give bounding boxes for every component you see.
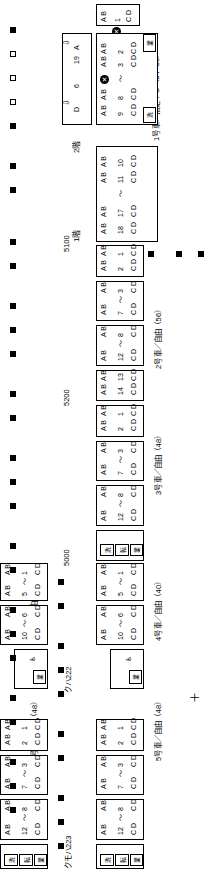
- seat-row-right: C D: [34, 799, 41, 811]
- seat-row-num: 1: [114, 18, 121, 22]
- car-3-block-1: A B 3 C D ～ A B 7 C D: [96, 441, 144, 481]
- car-5-block-0: A B 1 C D A B 2 C D: [96, 719, 144, 751]
- seat-row-right: C D: [130, 155, 137, 167]
- seat-row-left: A B: [100, 56, 107, 67]
- seat-row-right: C D: [130, 404, 137, 416]
- seat-row-left: A B: [100, 824, 107, 835]
- seat-row-right: C D: [34, 628, 41, 640]
- utility-cell: 業: [130, 854, 143, 866]
- seat-row-num: 9: [117, 112, 124, 116]
- seat-row-left: A B: [4, 824, 11, 835]
- car-6-block-1: A B 6 C D ～ A B 10 C D: [0, 605, 48, 645]
- seat-row-num: ～: [117, 814, 124, 821]
- car-3-vehicle-code: 5000: [62, 549, 71, 566]
- seat-row-num: 12: [117, 353, 124, 361]
- car-5-utility-block: 洗 転 業: [96, 844, 144, 869]
- utility-cell: 業: [33, 670, 46, 684]
- seat-row-num: 3: [21, 763, 28, 767]
- seat-row-right: C D: [34, 733, 41, 745]
- seat-row-right: C D: [130, 325, 137, 337]
- seat-row-num: ～: [117, 296, 124, 303]
- car-7-block-0: A B 1 C D A B 2 C D: [0, 719, 48, 751]
- car-5-block-2: A B 8 C D ～ A B 12 C D: [96, 799, 144, 840]
- car-7-block-1: A B 3 C D ～ A B 7 C D: [0, 755, 48, 795]
- seat-row-num: 3: [117, 289, 124, 293]
- seat-row-left: A B: [100, 105, 107, 116]
- seat-row-left: A B: [100, 464, 107, 475]
- seat-row-right: C D: [130, 733, 137, 745]
- seat-row-left: A B: [100, 43, 107, 54]
- car-3-label: 3号車／自由（48）: [152, 431, 163, 495]
- seat-row-left: A B: [100, 405, 107, 416]
- seat-row-num: 2: [117, 50, 124, 54]
- seat-row-right: C D: [130, 303, 137, 315]
- seat-row-right: C D: [130, 485, 137, 497]
- seat-row-num: 1: [21, 726, 28, 730]
- car-1-vehicle-code: 5100: [62, 235, 71, 252]
- seat-row-left: A B: [100, 719, 107, 730]
- car-7-utility-block: 洗 転 業: [0, 844, 48, 869]
- seat-row-num: 1: [117, 412, 124, 416]
- car-2-block-2: A B 8 C D ～ A B 12 C D: [96, 325, 144, 366]
- seat-row-right: C D: [130, 369, 137, 381]
- seat-row-right: C D: [125, 10, 132, 22]
- seat-row-left: A B: [100, 564, 107, 575]
- seat-row-right: C D: [130, 463, 137, 475]
- seat-row-left: A B: [100, 756, 107, 767]
- seat-row-num: 2: [117, 267, 124, 271]
- seat-row-num: 8: [21, 807, 28, 811]
- seat-row-right: C D: [130, 777, 137, 789]
- seat-row-left: A B: [100, 11, 107, 22]
- seat-row-num: 1: [117, 726, 124, 730]
- seat-row-right: C D: [130, 88, 137, 100]
- seat-row-right: C D: [130, 509, 137, 521]
- seat-row-num: ～: [117, 190, 124, 197]
- utility-cell: 転: [115, 544, 129, 556]
- wheelchair-icon: ♿: [29, 656, 36, 662]
- car-1-block-2: A B 10 C D A B 11 C D ～ A B 17 C D A B 1…: [96, 146, 158, 242]
- seat-row-num: ～: [117, 500, 124, 507]
- seat-row-num: ～: [117, 456, 124, 463]
- utility-cell: 洗: [4, 854, 18, 866]
- seat-row-num: 7: [117, 311, 124, 315]
- utility-cell: 洗: [143, 107, 156, 123]
- car-2-label: 2号車／自由（56）: [152, 305, 163, 369]
- car-3-block-2: A B 8 C D ～ A B 12 C D: [96, 485, 144, 526]
- seat-row-num: 11: [117, 176, 124, 183]
- seat-row-num: ～: [21, 578, 28, 585]
- seat-row-left: A B: [100, 326, 107, 337]
- seat-row-right: C D: [130, 259, 137, 271]
- seat-row-left: A B: [100, 486, 107, 497]
- car-2-block-0: A B 1 C D A B 2 C D: [96, 245, 144, 277]
- car-5-vehicle-code: クモハ223: [62, 835, 73, 869]
- car-1-block-1: A B 2 C D A B 3 C D ～ ✕ A B 8 C D A B 9 …: [96, 33, 158, 125]
- seat-row-num: 18: [117, 226, 124, 234]
- car-4-block-0: A B 1 C D ～ A B 5 C D: [96, 563, 144, 601]
- utility-cell: 業: [143, 34, 156, 52]
- seat-row-num: 10: [21, 632, 28, 640]
- seat-row-num: 10: [117, 159, 124, 167]
- seat-row-num: 12: [117, 827, 124, 835]
- seat-row-right: C D: [130, 755, 137, 767]
- utility-cell: 業: [130, 544, 143, 556]
- seat-row-left: A B: [100, 370, 107, 381]
- seat-row-right: C D: [130, 799, 137, 811]
- seat-row-left: A B: [100, 350, 107, 361]
- seat-row-right: C D: [130, 419, 137, 431]
- car-4-label: 4号車／自由（40）: [152, 577, 163, 641]
- marker-square: [198, 251, 204, 257]
- seat-row-num: 8: [117, 96, 124, 100]
- seat-row-right: C D: [130, 563, 137, 575]
- seat-row-right: C D: [34, 718, 41, 730]
- seat-row-right: C D: [34, 823, 41, 835]
- utility-cell: 転: [115, 854, 129, 866]
- seat-row-num: 1: [117, 252, 124, 256]
- seat-row-left: A B: [100, 206, 107, 217]
- seat-row-right: C D: [130, 55, 137, 67]
- seat-row-left: A B: [100, 384, 107, 395]
- seat-row-left: A B: [100, 585, 107, 596]
- seat-row-num: ～: [117, 340, 124, 347]
- seat-row-num: 8: [117, 807, 124, 811]
- car-7-block-2: A B 8 C D ～ A B 12 C D: [0, 799, 48, 840]
- seat-row-right: C D: [34, 584, 41, 596]
